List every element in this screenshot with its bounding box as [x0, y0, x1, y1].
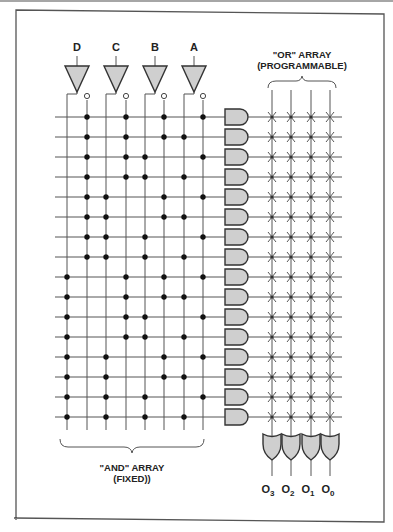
svg-text:O0: O0 [321, 483, 335, 498]
connection-dot [103, 414, 108, 419]
or-array-subtitle: (PROGRAMMABLE) [257, 60, 347, 71]
buffer-gate-icon [143, 66, 167, 92]
connection-dot [64, 354, 69, 359]
connection-dot [161, 374, 166, 379]
output-label-o0: O0 [321, 483, 335, 498]
input-label-c: C [112, 41, 120, 53]
connection-dot [64, 294, 69, 299]
and-gate-icon [225, 289, 248, 305]
connection-dot [181, 214, 186, 219]
connection-dot [142, 334, 147, 339]
connection-dot [84, 194, 89, 199]
svg-text:O1: O1 [301, 483, 315, 498]
svg-text:O2: O2 [281, 483, 295, 498]
output-label-o2: O2 [281, 483, 295, 498]
and-array-subtitle: (FIXED)) [113, 473, 150, 484]
connection-dot [161, 214, 166, 219]
inverter-bubble-icon [123, 93, 128, 98]
connection-dot [103, 394, 108, 399]
connection-dot [84, 214, 89, 219]
pla-diagram: D C B A "OR" ARRAY (PROGRAMMABLE) "AND" … [0, 0, 393, 532]
connection-dot [84, 254, 89, 259]
connection-dot [64, 374, 69, 379]
connection-dot [181, 134, 186, 139]
buffer-gate-icon [182, 66, 206, 92]
connection-dot [200, 314, 205, 319]
and-gate-icon [225, 249, 248, 265]
connection-dot [84, 114, 89, 119]
connection-dot [103, 354, 108, 359]
connection-dot [142, 154, 147, 159]
connection-dot [123, 174, 128, 179]
output-label-o3: O3 [261, 483, 275, 498]
inverter-bubble-icon [200, 93, 205, 98]
connection-dot [142, 254, 147, 259]
connection-dot [103, 234, 108, 239]
connection-dot [161, 294, 166, 299]
connection-dot [123, 294, 128, 299]
and-gate-icon [225, 229, 248, 245]
connection-dot [142, 234, 147, 239]
connection-dot [161, 134, 166, 139]
connection-dot [64, 394, 69, 399]
connection-dot [200, 354, 205, 359]
and-array-brace [60, 439, 204, 453]
connection-dot [84, 174, 89, 179]
connection-dot [123, 114, 128, 119]
and-gate-icon [225, 329, 248, 345]
connection-dot [181, 374, 186, 379]
and-gate-icon [225, 209, 248, 225]
connection-dot [123, 314, 128, 319]
connection-dot [142, 174, 147, 179]
or-array-brace [268, 76, 336, 88]
and-gate-icon [225, 129, 248, 145]
inverter-bubble-icon [161, 93, 166, 98]
connection-dot [181, 254, 186, 259]
connection-dot [103, 214, 108, 219]
and-gate-icon [225, 409, 248, 425]
connection-dot [103, 374, 108, 379]
connection-dot [200, 274, 205, 279]
and-gate-icon [225, 109, 248, 125]
connection-dot [84, 234, 89, 239]
connection-dot [181, 334, 186, 339]
svg-text:O3: O3 [261, 483, 275, 498]
connection-dot [84, 154, 89, 159]
connection-dot [123, 134, 128, 139]
circuit [55, 56, 342, 476]
connection-dot [161, 354, 166, 359]
connection-dot [200, 114, 205, 119]
connection-dot [64, 274, 69, 279]
connection-dot [181, 294, 186, 299]
connection-dot [200, 394, 205, 399]
and-gate-icon [225, 189, 248, 205]
connection-dot [64, 414, 69, 419]
connection-dot [161, 194, 166, 199]
output-label-o1: O1 [301, 483, 315, 498]
connection-dot [123, 334, 128, 339]
inverter-bubble-icon [84, 93, 89, 98]
and-gate-icon [225, 369, 248, 385]
connection-dot [103, 194, 108, 199]
or-array-title: "OR" ARRAY [273, 49, 332, 60]
and-gate-icon [225, 169, 248, 185]
buffer-gate-icon [104, 66, 128, 92]
connection-dot [84, 134, 89, 139]
connection-dot [161, 114, 166, 119]
connection-dot [200, 194, 205, 199]
connection-dot [161, 274, 166, 279]
or-gate-icon [282, 434, 300, 460]
connection-dot [142, 314, 147, 319]
or-gate-icon [302, 434, 320, 460]
and-gate-icon [225, 309, 248, 325]
connection-dot [200, 234, 205, 239]
input-label-b: B [151, 41, 159, 53]
connection-dot [64, 334, 69, 339]
connection-dot [103, 254, 108, 259]
or-gate-icon [263, 434, 281, 460]
input-label-d: D [73, 41, 81, 53]
connection-dot [142, 414, 147, 419]
and-gate-icon [225, 149, 248, 165]
and-gate-icon [225, 349, 248, 365]
connection-dot [123, 154, 128, 159]
